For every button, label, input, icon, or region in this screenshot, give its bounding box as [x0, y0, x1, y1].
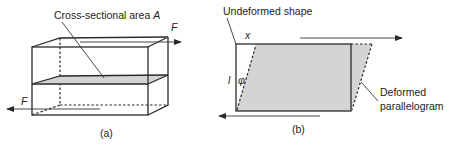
panel-b-shear: Undeformed shape x l φ Deformed parallel…	[219, 5, 444, 135]
shear-angle-phi-label: φ	[238, 74, 245, 86]
hidden-edge-bottom-left	[32, 105, 60, 115]
shear-diagram: F F Cross-sectional area A (a) Undeforme…	[0, 0, 461, 148]
cross-section-leader-line	[62, 22, 104, 78]
deformed-label-line1: Deformed	[380, 86, 426, 98]
height-l-label: l	[228, 74, 231, 86]
undeformed-shape-label: Undeformed shape	[223, 5, 312, 17]
cross-section-annotation: Cross-sectional area A	[54, 9, 160, 21]
deformed-leader-line	[361, 82, 378, 101]
panel-a-block: F F Cross-sectional area A (a)	[7, 9, 181, 139]
undeformed-leader-line	[227, 18, 236, 44]
displacement-x-label: x	[244, 29, 251, 41]
force-label-top: F	[171, 21, 178, 33]
panel-b-caption: (b)	[292, 123, 305, 135]
panel-a-caption: (a)	[100, 127, 113, 139]
deformed-label-line2: parallelogram	[380, 100, 444, 112]
force-label-bottom: F	[21, 95, 28, 107]
